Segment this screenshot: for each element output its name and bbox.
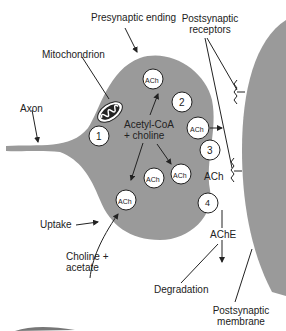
- presynaptic-terminal: [6, 56, 214, 240]
- label-ach-cleft: ACh: [204, 171, 223, 182]
- step-2-label: 2: [179, 97, 185, 108]
- label-degradation: Degradation: [154, 284, 208, 295]
- label-ache: AChE: [210, 229, 236, 240]
- postsynaptic-membrane: [242, 20, 286, 296]
- label-line: Postsynaptic: [180, 13, 240, 24]
- vesicle-label: ACh: [173, 170, 187, 181]
- label-line: + choline: [124, 130, 174, 141]
- label-line: membrane: [206, 316, 276, 327]
- label-line: Acetyl-CoA: [124, 119, 174, 130]
- label-line: acetate: [66, 262, 109, 273]
- label-acetyl-coa: Acetyl-CoA + choline: [124, 119, 174, 141]
- step-1-label: 1: [96, 131, 102, 142]
- receptor-icon: [231, 158, 242, 182]
- label-postsynaptic-receptors: Postsynaptic receptors: [180, 13, 240, 35]
- label-mitochondrion: Mitochondrion: [42, 49, 105, 60]
- vesicle-label: ACh: [190, 124, 204, 135]
- step-3-label: 3: [207, 145, 213, 156]
- receptor-icon: [234, 80, 245, 104]
- vesicle-label: ACh: [118, 196, 132, 207]
- label-line: Choline +: [66, 251, 109, 262]
- step-4-label: 4: [205, 198, 210, 209]
- label-presynaptic-ending: Presynaptic ending: [91, 12, 176, 23]
- label-line: receptors: [180, 24, 240, 35]
- vesicle-label: ACh: [145, 75, 159, 86]
- label-line: Postsynaptic: [206, 305, 276, 316]
- vesicle-label: ACh: [146, 174, 160, 185]
- label-axon: Axon: [20, 103, 43, 114]
- label-choline-acetate: Choline + acetate: [66, 251, 109, 273]
- label-uptake: Uptake: [40, 219, 72, 230]
- label-postsynaptic-membrane: Postsynaptic membrane: [206, 305, 276, 327]
